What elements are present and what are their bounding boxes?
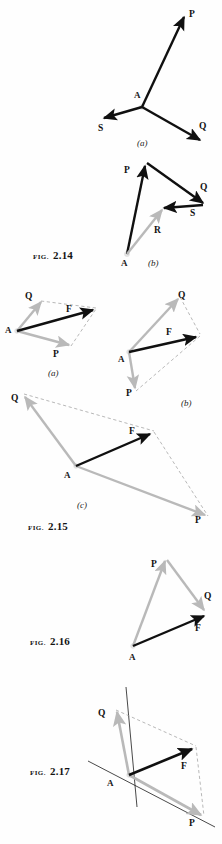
fig-2-15-caption-number: 2.15 <box>48 520 68 532</box>
fig-2-15c-part-label: (c) <box>77 501 87 510</box>
fig-2-15c-label-A: A <box>64 471 71 480</box>
fig-2-14b-part-label: (b) <box>148 259 159 268</box>
fig-2-14a-label-S: S <box>98 124 103 134</box>
fig-2-14b-label-P: P <box>124 166 130 176</box>
fig-2-17-caption-number: 2.17 <box>50 765 70 777</box>
fig-2-15c-construction-line-right <box>154 432 208 516</box>
fig-2-16-label-F: F <box>195 624 201 634</box>
fig-2-15a-vector-F <box>17 310 93 331</box>
figure-plate: P Q S A (a) P Q S R A (b) FIG. 2.14 Q P … <box>0 0 222 844</box>
fig-2-17-label-Q: Q <box>98 709 105 719</box>
fig-2-17-diagram <box>88 687 215 827</box>
fig-2-16-caption-word: FIG. <box>30 639 46 647</box>
fig-2-15-part-b-diagram <box>127 297 200 391</box>
fig-2-15c-label-P: P <box>195 516 201 526</box>
fig-2-14b-label-S: S <box>190 209 195 219</box>
fig-2-15b-vector-P <box>129 352 135 388</box>
fig-2-17-label-A: A <box>107 779 114 788</box>
fig-2-16-label-Q: Q <box>204 592 211 602</box>
fig-2-15b-label-P: P <box>126 389 132 399</box>
fig-2-15a-label-P: P <box>53 350 59 360</box>
fig-2-14a-vector-S <box>104 107 142 118</box>
fig-2-15c-vector-Q <box>25 397 76 466</box>
fig-2-15-part-c-diagram <box>24 394 208 516</box>
fig-2-15b-part-label: (b) <box>181 399 192 408</box>
fig-2-17-line-of-action-P <box>88 761 215 827</box>
fig-2-17-label-P: P <box>189 819 195 829</box>
fig-2-16-label-P: P <box>151 560 157 570</box>
fig-2-14-caption-word: FIG. <box>33 253 49 261</box>
fig-2-17-construction-line-right <box>196 747 204 816</box>
fig-2-17-vector-P <box>129 775 201 815</box>
fig-2-17-line-of-action-Q <box>126 687 137 807</box>
fig-2-17-construction-line-top <box>116 710 196 746</box>
figure-vector-canvas <box>0 0 222 844</box>
fig-2-14b-vector-Q <box>147 163 203 203</box>
fig-2-14a-label-Q: Q <box>199 122 206 132</box>
fig-2-15a-label-A: A <box>5 326 12 335</box>
fig-2-16-caption-number: 2.16 <box>50 635 70 647</box>
fig-2-14b-label-R: R <box>154 226 161 236</box>
fig-2-15c-label-F: F <box>129 427 135 437</box>
fig-2-14-caption: FIG. 2.14 <box>33 245 73 263</box>
fig-2-15a-label-F: F <box>66 305 72 315</box>
fig-2-14a-label-A: A <box>134 91 141 100</box>
fig-2-15-part-a-diagram <box>15 301 96 346</box>
fig-2-14b-vector-S <box>164 205 203 208</box>
fig-2-15c-vector-P <box>76 466 205 515</box>
fig-2-15b-label-A: A <box>118 355 125 364</box>
fig-2-15b-vector-Q <box>129 299 178 352</box>
fig-2-17-caption-word: FIG. <box>30 769 46 777</box>
fig-2-14a-vector-Q <box>142 107 200 140</box>
fig-2-14b-label-A: A <box>121 259 128 268</box>
fig-2-14a-part-label: (a) <box>137 139 148 148</box>
fig-2-15a-vector-P <box>17 331 69 345</box>
fig-2-14-caption-number: 2.14 <box>53 249 73 261</box>
fig-2-14b-label-Q: Q <box>200 183 207 193</box>
fig-2-17-caption: FIG. 2.17 <box>30 761 70 779</box>
fig-2-14a-vector-P <box>142 17 184 107</box>
fig-2-16-label-A: A <box>129 653 136 662</box>
fig-2-17-label-F: F <box>181 762 187 772</box>
fig-2-17-vector-Q <box>117 712 129 775</box>
fig-2-14-part-a-diagram <box>104 17 200 140</box>
fig-2-15-caption-word: FIG. <box>28 524 44 532</box>
fig-2-15c-label-Q: Q <box>11 394 18 404</box>
fig-2-15b-vector-F <box>129 337 196 352</box>
fig-2-16-diagram <box>131 560 204 648</box>
fig-2-15a-label-Q: Q <box>25 292 32 302</box>
fig-2-15b-label-F: F <box>166 328 172 338</box>
fig-2-15c-vector-F <box>76 434 150 466</box>
fig-2-15-caption: FIG. 2.15 <box>28 516 68 534</box>
fig-2-14a-label-P: P <box>189 10 195 20</box>
fig-2-15b-construction-line-top <box>180 297 200 334</box>
fig-2-15a-part-label: (a) <box>48 369 59 378</box>
fig-2-16-caption: FIG. 2.16 <box>30 631 70 649</box>
fig-2-16-vector-Q <box>167 560 204 610</box>
fig-2-15b-label-Q: Q <box>178 291 185 301</box>
